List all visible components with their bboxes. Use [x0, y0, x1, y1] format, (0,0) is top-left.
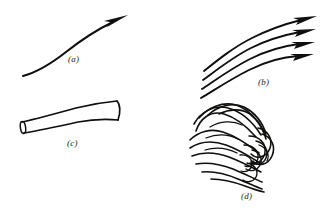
- panel-label-d: (d): [241, 191, 252, 201]
- panel-a-arrow-shaft: [23, 22, 113, 76]
- panel-d-filament-12: [210, 122, 242, 127]
- panel-c-artwork: [20, 101, 120, 134]
- panel-d-filament-14: [205, 148, 237, 153]
- panel-c-tube-bottom-edge: [24, 119, 118, 133]
- panel-b-arrowhead-4: [290, 54, 314, 61]
- panel-d-filament-11: [211, 179, 264, 192]
- panel-d-filament-6: [190, 130, 259, 153]
- panel-b-arrow-shaft-3: [202, 44, 299, 89]
- panel-label-b: (b): [258, 77, 269, 87]
- panel-a-artwork: [23, 15, 128, 76]
- panel-c-tube-right-cap: [117, 101, 120, 120]
- panel-d-artwork: [190, 104, 274, 192]
- figure-line-art: [0, 0, 325, 212]
- panel-c-tube-left-opening: [20, 121, 27, 134]
- panel-label-c: (c): [67, 138, 78, 148]
- panel-label-a: (a): [68, 54, 79, 64]
- figure-canvas: (a) (b) (c) (d): [0, 0, 325, 212]
